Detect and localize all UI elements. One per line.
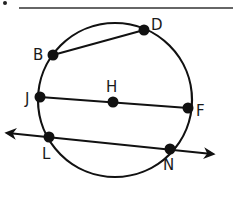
point-h	[108, 97, 119, 108]
point-d	[139, 25, 150, 36]
label-j: J	[24, 90, 29, 108]
bullet-dot	[3, 1, 7, 5]
label-d: D	[151, 16, 163, 34]
segment-chord-BD	[53, 30, 144, 55]
line-secant-LN	[8, 133, 212, 154]
label-l: L	[42, 145, 51, 163]
point-b	[48, 50, 59, 61]
label-n: N	[163, 156, 174, 174]
circle-diagram: BDHJFLN	[0, 0, 233, 197]
point-f	[183, 103, 194, 114]
secant-lines	[8, 133, 212, 154]
point-j	[35, 92, 46, 103]
point-l	[44, 132, 55, 143]
point-n	[165, 144, 176, 155]
label-b: B	[33, 46, 43, 64]
label-f: F	[196, 102, 205, 120]
label-h: H	[106, 78, 117, 96]
